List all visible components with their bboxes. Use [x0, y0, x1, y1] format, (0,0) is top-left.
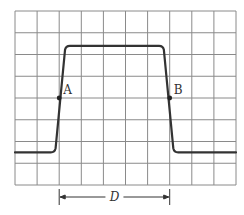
dimension-d-label: D	[109, 190, 120, 204]
arrowhead-left-icon	[60, 195, 65, 199]
oscilloscope-grid	[15, 11, 236, 185]
point-b-label: B	[174, 83, 183, 97]
pulse-waveform-diagram: A B D	[0, 0, 244, 215]
point-a-label: A	[62, 83, 72, 97]
point-a-marker	[57, 96, 62, 101]
arrowhead-right-icon	[164, 195, 169, 199]
point-b-marker	[167, 96, 172, 101]
